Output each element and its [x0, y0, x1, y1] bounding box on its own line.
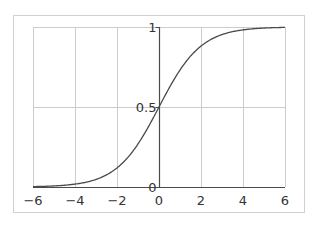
x-tick-label: 2 — [197, 193, 205, 208]
y-tick-label: 0 — [148, 180, 156, 195]
x-tick-label: 4 — [239, 193, 247, 208]
sigmoid-chart: −6−4−2024600.51 — [0, 0, 315, 225]
x-tick-label: −4 — [65, 193, 84, 208]
x-tick-label: −6 — [23, 193, 42, 208]
x-tick-label: 6 — [281, 193, 289, 208]
y-tick-label: 0.5 — [136, 100, 157, 115]
y-tick-label: 1 — [148, 20, 156, 35]
x-tick-label: 0 — [155, 193, 163, 208]
x-tick-label: −2 — [107, 193, 126, 208]
